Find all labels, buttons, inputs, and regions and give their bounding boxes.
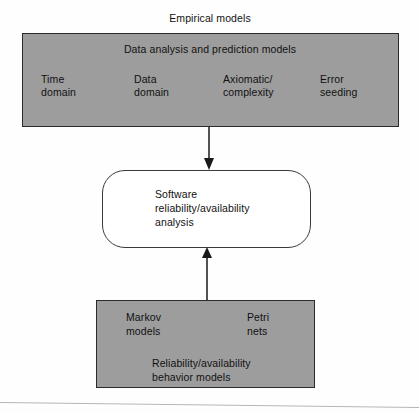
bottom-footer-line2: behavior models <box>152 371 231 385</box>
bottom-right-petri-nets-line2: nets <box>247 325 267 339</box>
bottom-left-markov-models-line2: models <box>126 325 160 339</box>
arrow-bottom-to-center-icon <box>198 246 216 301</box>
top-column-error-seeding-line1: Error <box>320 73 344 87</box>
arrow-top-to-center-icon <box>200 127 218 171</box>
center-box-line1: Software <box>155 188 197 202</box>
top-column-time-domain-line1: Time <box>41 73 64 87</box>
top-column-axiomatic-complexity-line2: complexity <box>223 86 274 100</box>
top-column-error-seeding-line2: seeding <box>320 86 357 100</box>
center-box-line3: analysis <box>155 216 194 230</box>
bottom-left-markov-models-line1: Markov <box>126 311 161 325</box>
empirical-models-heading: Data analysis and prediction models <box>124 43 296 57</box>
diagram-canvas: Empirical models Data analysis and predi… <box>0 0 419 413</box>
top-column-time-domain-line2: domain <box>41 86 76 100</box>
diagram-caption: Empirical models <box>169 12 251 26</box>
top-column-data-domain-line2: domain <box>134 86 169 100</box>
bottom-footer-line1: Reliability/availability <box>152 357 251 371</box>
page-bottom-rule <box>0 399 419 411</box>
bottom-right-petri-nets-line1: Petri <box>247 311 269 325</box>
top-column-axiomatic-complexity-line1: Axiomatic/ <box>223 73 272 87</box>
center-box-line2: reliability/availability <box>155 202 250 216</box>
top-column-data-domain-line1: Data <box>134 73 157 87</box>
